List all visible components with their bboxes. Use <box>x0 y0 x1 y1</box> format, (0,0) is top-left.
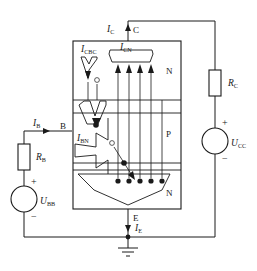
ucc-minus: − <box>222 153 228 164</box>
electron-dot-4 <box>148 178 153 183</box>
ib-label: IB <box>32 118 40 129</box>
icn-arrowhead-3 <box>137 64 143 73</box>
bjt-current-flow-diagram: RC + − UCC RB + − UBB <box>0 0 257 271</box>
ubb-label: UBB <box>40 196 55 207</box>
region-label-collector-n: N <box>166 66 173 76</box>
icn-arrows <box>115 64 154 100</box>
ie-label: IE <box>134 223 142 234</box>
emitter-electron-dots <box>115 178 164 183</box>
icbo-flow-group: ICBC <box>79 44 106 128</box>
ground-node <box>118 235 138 256</box>
source-ucc: + − UCC <box>202 117 246 164</box>
emitter-funnel-outline <box>78 174 170 205</box>
ibn-flow-group: IBN <box>75 118 135 180</box>
resistor-rc: RC <box>209 70 238 96</box>
terminal-label-collector: C <box>133 25 139 35</box>
rb-body <box>18 144 30 170</box>
ucc-plus: + <box>222 117 228 128</box>
ic-label: IC <box>106 24 114 35</box>
icn-flow-group: ICN <box>109 42 162 178</box>
region-label-emitter-n: N <box>166 188 173 198</box>
icn-arrowhead-4 <box>148 64 154 73</box>
wire-collector-to-rc <box>128 21 215 70</box>
region-labels: N P N <box>166 66 173 198</box>
icbo-arrowhead-upper <box>85 71 91 80</box>
ic-arrowhead <box>125 24 131 31</box>
resistor-rb: RB <box>18 144 46 170</box>
icn-arrowhead-2 <box>126 64 132 73</box>
wire-rb-to-base <box>24 131 72 144</box>
ucc-body <box>202 128 228 154</box>
ubb-plus: + <box>31 176 37 187</box>
ib-arrowhead <box>43 128 50 134</box>
icbo-label: ICBC <box>80 44 97 55</box>
ucc-label: UCC <box>231 138 246 149</box>
hole-marker-base <box>110 141 115 146</box>
terminal-label-emitter: E <box>133 213 139 223</box>
figure-canvas: RC + − UCC RB + − UBB <box>0 0 257 271</box>
terminal-labels: C B E <box>60 25 139 223</box>
rc-body <box>209 70 221 96</box>
ie-arrowhead <box>125 225 131 232</box>
region-label-base-p: P <box>166 129 171 139</box>
electron-dot-5 <box>159 178 164 183</box>
ibn-label: IBN <box>76 133 89 144</box>
electron-dot-1 <box>115 178 120 183</box>
ubb-minus: − <box>31 211 37 222</box>
rc-label: RC <box>227 78 238 89</box>
electron-dot-3 <box>137 178 142 183</box>
icn-flow-lines <box>118 100 162 178</box>
icn-arrowhead-1 <box>115 64 121 73</box>
terminal-label-base: B <box>60 121 66 131</box>
electron-dot-2 <box>126 178 131 183</box>
ibn-recombination-dot <box>121 160 127 166</box>
ibn-zigzag-outline <box>75 118 108 174</box>
ubb-body <box>11 186 37 212</box>
source-ubb: + − UBB <box>11 176 55 222</box>
icbo-recombination-dot <box>93 122 99 128</box>
rb-label: RB <box>35 152 46 163</box>
emitter-injection-funnel <box>78 174 170 205</box>
icn-label: ICN <box>119 42 132 53</box>
icbo-lower-arrow <box>79 101 106 124</box>
hole-marker-collector <box>95 78 100 83</box>
